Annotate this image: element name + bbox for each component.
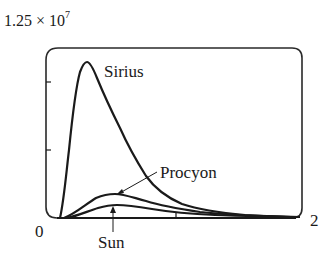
y-max-exponent: 7 <box>65 9 70 20</box>
series-procyon-curve <box>64 194 300 218</box>
sun-arrowhead-icon <box>110 206 116 213</box>
y-max-mantissa: 1.25 × 10 <box>4 12 65 29</box>
series-label-sirius: Sirius <box>104 63 144 80</box>
series-label-procyon: Procyon <box>160 164 217 181</box>
series-sun-curve <box>66 205 300 218</box>
y-axis-max-label: 1.25 × 107 <box>4 12 70 29</box>
x-axis-min-label: 0 <box>35 223 44 240</box>
chart-canvas <box>0 0 336 262</box>
plot-frame <box>46 48 302 218</box>
x-axis-max-label: 2 <box>310 212 319 229</box>
series-label-sun: Sun <box>98 234 124 251</box>
series-sirius-curve <box>60 62 300 218</box>
